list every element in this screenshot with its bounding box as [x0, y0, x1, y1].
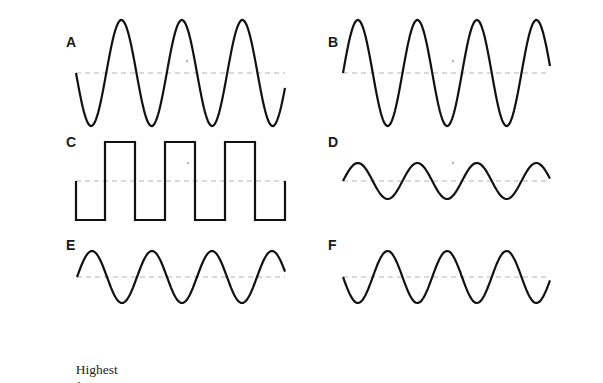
wave-panel-d: D — [328, 134, 550, 199]
speck — [186, 60, 188, 62]
panel-label: F — [328, 237, 337, 253]
panel-label: A — [66, 34, 76, 50]
speck — [452, 162, 454, 164]
same-energy-row: Or, all waves have the same average wave… — [69, 364, 431, 383]
wave-panel-f: F — [328, 237, 550, 303]
panel-label: E — [66, 237, 75, 253]
wave-diagram: ABCDEF — [0, 0, 603, 383]
wave-panel-a: A — [66, 20, 285, 126]
sine-wave — [76, 20, 285, 126]
speck — [452, 60, 454, 62]
wave-panel-e: E — [66, 237, 285, 303]
panel-label: B — [328, 34, 338, 50]
wave-panel-b: B — [328, 20, 550, 126]
panel-label: D — [328, 134, 338, 150]
panel-label: C — [66, 134, 76, 150]
speck — [187, 162, 189, 164]
wave-panel-c: C — [66, 134, 285, 220]
